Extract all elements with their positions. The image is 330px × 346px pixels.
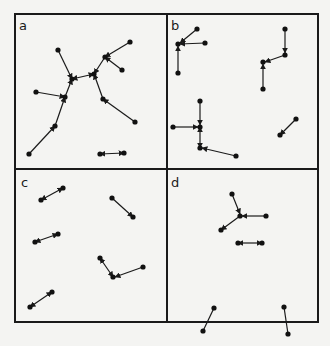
figure-canvas: abcd — [0, 0, 330, 346]
connection-arrow — [58, 50, 72, 79]
connection-arrow — [221, 216, 240, 230]
node-dot — [38, 197, 43, 202]
node-dot — [285, 331, 290, 336]
node-dot — [132, 119, 137, 124]
node-dot — [62, 94, 67, 99]
node-dot — [91, 71, 96, 76]
connection-arrow — [72, 74, 94, 79]
panel-label: b — [171, 18, 179, 33]
node-dot — [110, 274, 115, 279]
connection-arrow — [180, 43, 205, 44]
connection-arrow — [112, 198, 133, 217]
node-dot — [26, 151, 31, 156]
panel-b: b — [170, 18, 298, 159]
node-dot — [119, 67, 124, 72]
node-dot — [202, 40, 207, 45]
node-dot — [282, 26, 287, 31]
node-dot — [194, 26, 199, 31]
node-dot — [97, 151, 102, 156]
connection-arrow — [100, 258, 113, 277]
panels-group: abcd — [19, 18, 299, 337]
connection-arrow — [284, 307, 288, 334]
node-dot — [49, 289, 54, 294]
panel-d: d — [171, 175, 291, 337]
node-dot — [170, 124, 175, 129]
panel-label: c — [21, 175, 28, 190]
connection-arrow — [65, 79, 72, 97]
connection-arrow — [94, 74, 103, 99]
node-dot — [277, 132, 282, 137]
node-dot — [260, 86, 265, 91]
connection-arrow — [100, 153, 124, 154]
node-dot — [197, 145, 202, 150]
node-dot — [140, 264, 145, 269]
node-dot — [69, 76, 74, 81]
connection-arrow — [280, 119, 296, 135]
panel-label: a — [19, 18, 27, 33]
node-dot — [237, 213, 242, 218]
node-dot — [55, 231, 60, 236]
node-dot — [32, 239, 37, 244]
node-dot — [260, 59, 265, 64]
node-dot — [235, 240, 240, 245]
node-dot — [175, 41, 180, 46]
node-dot — [100, 96, 105, 101]
connection-arrow — [265, 55, 285, 62]
connection-arrow — [180, 29, 197, 43]
node-dot — [33, 89, 38, 94]
node-dot — [102, 54, 107, 59]
node-dot — [259, 240, 264, 245]
connection-arrow — [115, 267, 143, 277]
node-dot — [282, 52, 287, 57]
panel-c: c — [21, 175, 146, 310]
connection-arrow — [203, 308, 214, 331]
node-dot — [233, 153, 238, 158]
node-dot — [55, 47, 60, 52]
connection-arrow — [29, 126, 55, 154]
connection-arrow — [105, 57, 122, 70]
connection-arrow — [105, 42, 130, 57]
node-dot — [109, 195, 114, 200]
node-dot — [229, 191, 234, 196]
connection-arrow — [36, 92, 65, 97]
connection-arrow — [103, 99, 135, 122]
connection-arrow — [41, 188, 63, 200]
node-dot — [211, 305, 216, 310]
node-dot — [27, 304, 32, 309]
panel-label: d — [171, 175, 179, 190]
node-dot — [127, 39, 132, 44]
connection-arrow — [94, 57, 105, 74]
connection-arrow — [202, 148, 236, 156]
node-dot — [263, 213, 268, 218]
node-dot — [52, 123, 57, 128]
connection-arrow — [35, 234, 58, 242]
panel-a: a — [19, 18, 138, 157]
node-dot — [60, 185, 65, 190]
node-dot — [97, 255, 102, 260]
connection-arrow — [232, 194, 240, 214]
node-dot — [218, 227, 223, 232]
connection-arrow — [55, 97, 65, 126]
connection-arrow — [30, 292, 52, 307]
node-dot — [293, 116, 298, 121]
node-dot — [281, 304, 286, 309]
node-dot — [197, 98, 202, 103]
node-dot — [121, 150, 126, 155]
node-dot — [197, 124, 202, 129]
node-dot — [130, 214, 135, 219]
node-dot — [200, 328, 205, 333]
node-dot — [175, 70, 180, 75]
